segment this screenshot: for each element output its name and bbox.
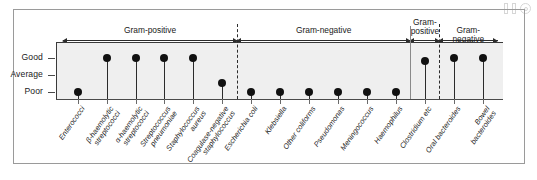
group-label: Gram-negative [451,26,486,44]
data-point-marker [103,54,111,62]
data-point-marker [276,88,284,96]
data-point-marker [132,54,140,62]
data-point-marker [421,57,429,65]
data-point-stem [483,58,484,99]
data-point-marker [334,88,342,96]
data-point-stem [164,58,165,99]
corner-icon-group [504,3,531,14]
data-point-stem [107,58,108,99]
data-point-stem [425,61,426,99]
data-point-stem [454,58,455,99]
group-divider-dashed [237,24,238,99]
y-axis-tick-mark [48,75,55,76]
y-axis-tick-label: Poor [24,87,43,96]
group-label: Gram-positive [124,26,176,35]
data-point-marker [160,54,168,62]
target-glyph-icon [520,3,531,14]
data-point-marker [363,88,371,96]
x-axis-tick-mark [193,99,194,104]
y-axis-tick-label: Good [22,53,43,62]
data-point-marker [247,88,255,96]
y-axis: GoodAveragePoor [0,42,56,99]
group-divider-dashed [439,24,440,99]
data-point-marker [305,88,313,96]
bar-glyph-2-icon [512,3,516,14]
group-label: Gram-negative [296,26,351,35]
group-range-arrow [236,40,411,41]
y-axis-tick-label: Average [10,70,43,79]
group-range-arrow [410,40,440,41]
figure-root: Gram-positiveGram-negativeGram- positive… [0,0,537,180]
group-range-arrow [63,40,238,41]
group-divider-solid [410,26,411,99]
data-point-marker [479,54,487,62]
data-point-marker [450,54,458,62]
data-point-stem [193,58,194,99]
group-bracket-band: Gram-positiveGram-negativeGram- positive… [56,22,503,44]
data-point-stem [136,58,137,99]
y-axis-tick-mark [48,58,55,59]
bar-glyph-1-icon [504,3,508,14]
x-axis-tick-mark [164,99,165,104]
group-label: Gram- positive [411,18,439,36]
y-axis-tick-mark [48,92,55,93]
data-point-marker [74,88,82,96]
data-point-marker [218,79,226,87]
data-point-marker [189,54,197,62]
data-point-marker [392,88,400,96]
